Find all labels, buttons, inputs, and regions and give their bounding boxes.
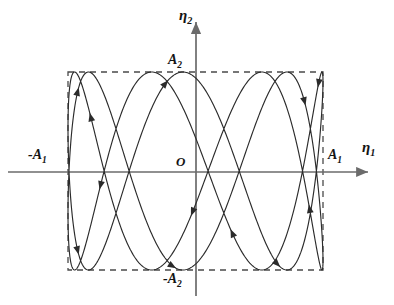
direction-arrowhead-8	[314, 78, 322, 88]
a1-negative-label-text: -A	[28, 147, 42, 162]
a2-positive-label: A2	[168, 53, 182, 70]
eta2-axis-label-text: η	[179, 7, 187, 23]
a2-negative-label: -A2	[163, 272, 182, 289]
eta1-axis-label-subscript: 1	[370, 147, 375, 158]
a1-positive-label: A1	[328, 148, 342, 165]
a1-negative-label-subscript: 1	[42, 155, 47, 165]
direction-arrowhead-10	[96, 180, 105, 190]
direction-arrowhead-5	[73, 246, 82, 256]
direction-arrowhead-4	[86, 112, 95, 122]
direction-arrowhead-9	[227, 228, 237, 239]
a1-negative-label: -A1	[28, 148, 47, 165]
a2-positive-label-subscript: 2	[177, 60, 182, 70]
direction-arrowhead-2	[306, 204, 314, 214]
a1-positive-label-subscript: 1	[337, 155, 342, 165]
eta1-axis-label: η1	[362, 140, 375, 158]
eta1-axis-label-text: η	[362, 139, 370, 155]
direction-arrowhead-11	[73, 87, 82, 97]
origin-label: O	[176, 155, 185, 168]
eta2-axis-label-subscript: 2	[187, 15, 192, 26]
a2-negative-label-text: -A	[163, 271, 177, 286]
axes-group	[8, 22, 368, 296]
direction-arrowhead-1	[300, 96, 309, 106]
a2-negative-label-subscript: 2	[177, 279, 182, 289]
direction-arrowheads	[73, 78, 322, 271]
a1-positive-label-text: A	[328, 147, 337, 162]
lissajous-figure: η2 η1 A2 -A2 -A1 A1 O	[0, 0, 394, 305]
eta2-axis-label: η2	[179, 8, 192, 26]
a2-positive-label-text: A	[168, 52, 177, 67]
